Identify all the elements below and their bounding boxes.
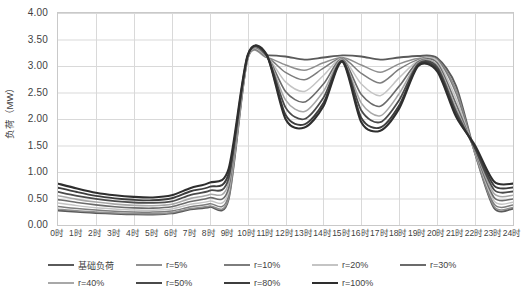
legend-swatch-icon (312, 282, 338, 284)
legend-swatch-icon (224, 282, 250, 284)
x-axis: 0时1时2时3时4时5时6时7时8时9时10时11时12时13时14时15时16… (57, 228, 514, 242)
x-axis-tick-label: 1时 (69, 228, 83, 239)
x-axis-tick-label: 6时 (164, 228, 178, 239)
x-axis-tick-label: 23时 (484, 228, 502, 239)
x-axis-tick-label: 17时 (370, 228, 388, 239)
x-axis-tick-label: 4时 (126, 228, 140, 239)
legend-label: r=30% (430, 260, 456, 270)
legend-label: r=20% (342, 260, 368, 270)
legend-label: r=100% (342, 278, 373, 288)
y-axis-tick-label: 1.50 (28, 141, 48, 151)
x-axis-tick-label: 8时 (202, 228, 216, 239)
x-axis-tick-label: 7时 (183, 228, 197, 239)
y-axis-tick-label: 0.00 (28, 220, 48, 230)
x-axis-tick-label: 10时 (237, 228, 255, 239)
x-axis-tick-label: 24时 (503, 228, 521, 239)
series-lines (58, 13, 513, 225)
legend-item[interactable]: r=10% (224, 256, 312, 274)
legend-item[interactable]: r=100% (312, 274, 400, 292)
legend-label: r=5% (166, 260, 187, 270)
legend-item[interactable]: r=30% (400, 256, 488, 274)
legend-label: r=80% (254, 278, 280, 288)
legend-item[interactable]: r=5% (136, 256, 224, 274)
x-axis-tick-label: 5时 (145, 228, 159, 239)
legend-item[interactable]: r=20% (312, 256, 400, 274)
y-axis-tick-label: 1.00 (28, 167, 48, 177)
y-axis-tick-label: 4.00 (28, 8, 48, 18)
x-axis-tick-label: 14时 (313, 228, 331, 239)
x-axis-tick-label: 3时 (107, 228, 121, 239)
x-axis-tick-label: 16时 (351, 228, 369, 239)
y-axis-tick-label: 2.00 (28, 114, 48, 124)
y-axis-tick-label: 3.50 (28, 35, 48, 45)
legend-row: r=40%r=50%r=80%r=100% (48, 274, 488, 292)
x-axis-tick-label: 11时 (257, 228, 275, 239)
legend-item[interactable]: 基础负荷 (48, 256, 136, 274)
legend-swatch-icon (48, 264, 74, 266)
legend-swatch-icon (48, 282, 74, 284)
legend-item[interactable]: r=80% (224, 274, 312, 292)
y-axis-tick-label: 2.50 (28, 88, 48, 98)
legend-label: 基础负荷 (78, 259, 114, 272)
legend-label: r=50% (166, 278, 192, 288)
x-axis-tick-label: 12时 (275, 228, 293, 239)
x-axis-tick-label: 21时 (446, 228, 464, 239)
x-axis-tick-label: 15时 (332, 228, 350, 239)
x-axis-tick-label: 0时 (50, 228, 64, 239)
legend-item[interactable]: r=50% (136, 274, 224, 292)
y-axis-tick-label: 0.50 (28, 194, 48, 204)
x-axis-tick-label: 22时 (465, 228, 483, 239)
x-axis-tick-label: 9时 (221, 228, 235, 239)
x-axis-tick-label: 18时 (389, 228, 407, 239)
legend-label: r=40% (78, 278, 104, 288)
legend-item[interactable]: r=40% (48, 274, 136, 292)
legend-row: 基础负荷r=5%r=10%r=20%r=30% (48, 256, 488, 274)
x-axis-tick-label: 13时 (294, 228, 312, 239)
y-axis-tick-label: 3.00 (28, 61, 48, 71)
x-axis-tick-label: 19时 (408, 228, 426, 239)
y-axis: 负荷（MW） 0.000.501.001.502.002.503.003.504… (0, 12, 52, 226)
x-axis-tick-label: 2时 (88, 228, 102, 239)
legend-swatch-icon (400, 264, 426, 266)
legend-swatch-icon (136, 282, 162, 284)
chart-legend: 基础负荷r=5%r=10%r=20%r=30%r=40%r=50%r=80%r=… (48, 256, 488, 296)
y-axis-title: 负荷（MW） (2, 80, 16, 142)
legend-swatch-icon (136, 264, 162, 266)
legend-swatch-icon (312, 264, 338, 266)
legend-swatch-icon (224, 264, 250, 266)
legend-label: r=10% (254, 260, 280, 270)
plot-area (57, 12, 514, 226)
x-axis-tick-label: 20时 (427, 228, 445, 239)
